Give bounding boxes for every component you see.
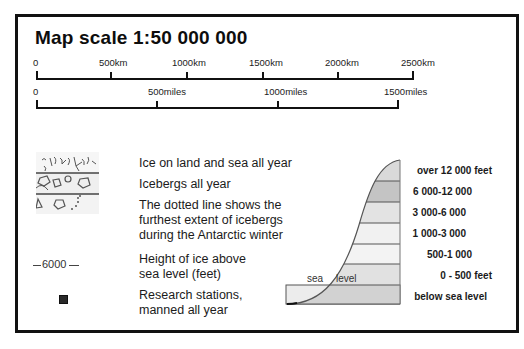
sea-label: sea <box>307 273 323 284</box>
km-tick <box>412 71 414 80</box>
level-label: level <box>336 273 357 284</box>
km-bar-line <box>36 78 414 80</box>
band-label-over-12000: over 12 000 feet <box>417 165 492 176</box>
miles-tick-label-500: 500miles <box>148 86 186 97</box>
km-tick-label-500: 500km <box>99 57 128 68</box>
km-tick <box>337 72 339 79</box>
legend-label-ice: Ice on land and sea all year <box>139 156 292 171</box>
miles-tick <box>397 100 399 109</box>
band-label-6000-12000: 6 000-12 000 <box>413 186 472 197</box>
legend-label-dotted-line: The dotted line shows the furthest exten… <box>139 198 283 243</box>
miles-tick <box>36 100 38 109</box>
legend-label-research-stations: Research stations, manned all year <box>139 288 243 318</box>
km-tick-label-0: 0 <box>33 57 38 68</box>
legend-label-icebergs: Icebergs all year <box>139 177 231 192</box>
km-tick <box>262 72 264 79</box>
legend-label-ice-height: Height of ice above sea level (feet) <box>139 252 246 282</box>
miles-tick <box>156 101 158 108</box>
ice-pattern-icon <box>36 152 99 214</box>
band-label-500-1000: 500-1 000 <box>427 249 472 260</box>
band-label-1000-3000: 1 000-3 000 <box>413 228 466 239</box>
ice-height-cross-section <box>284 155 404 307</box>
research-station-icon <box>59 295 68 304</box>
band-label-below-sea-level: below sea level <box>414 291 487 302</box>
miles-tick <box>277 101 279 108</box>
band-label-3000-6000: 3 000-6 000 <box>413 207 466 218</box>
ice-legend-swatch <box>36 152 99 214</box>
km-tick-label-1500: 1500km <box>249 57 283 68</box>
km-tick <box>110 72 112 79</box>
map-scale-title: Map scale 1:50 000 000 <box>35 27 248 49</box>
km-tick-label-2500: 2500km <box>401 57 435 68</box>
band-label-0-500: 0 - 500 feet <box>440 270 492 281</box>
km-tick <box>186 72 188 79</box>
km-tick <box>36 71 38 80</box>
km-tick-label-1000: 1000km <box>172 57 206 68</box>
miles-tick-label-1000: 1000miles <box>264 86 307 97</box>
miles-bar-line <box>36 107 399 109</box>
miles-tick-label-0: 0 <box>33 86 38 97</box>
contour-line-icon: 6000 <box>33 258 81 272</box>
km-tick-label-2000: 2000km <box>325 57 359 68</box>
miles-tick-label-1500: 1500miles <box>384 86 427 97</box>
